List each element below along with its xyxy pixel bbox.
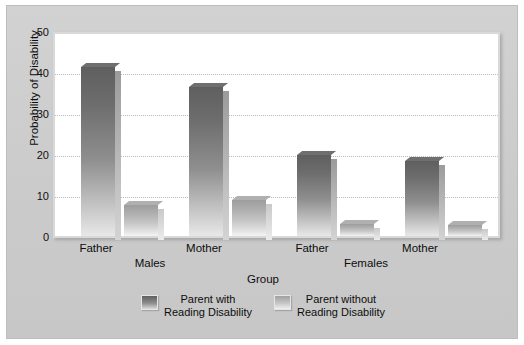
bar-front-face <box>297 155 331 236</box>
bar-females-father-without <box>340 224 374 236</box>
bar-side-face <box>115 71 121 241</box>
bar-front-face <box>81 67 115 237</box>
gridline-40 <box>55 74 498 75</box>
legend-swatch-icon <box>274 295 291 310</box>
bar-side-face <box>331 159 337 240</box>
plot-inner <box>55 34 498 236</box>
x-group-label-males: Males <box>95 257 205 269</box>
bar-front-face <box>189 87 223 236</box>
bar-females-mother-without <box>448 225 482 236</box>
x-axis-label: Group <box>7 273 519 285</box>
bar-side-face <box>158 209 164 240</box>
chart-canvas: Probability of Disability 50 40 30 20 10… <box>6 5 518 339</box>
plot-area <box>53 32 500 238</box>
x-tick-label-males-father: Father <box>51 242 141 254</box>
legend-label: Parent without Reading Disability <box>297 293 385 318</box>
y-tick-label: 20 <box>19 150 49 161</box>
bar-females-mother-with <box>405 161 439 236</box>
bar-males-mother-without <box>232 200 266 236</box>
bar-females-father-with <box>297 155 331 236</box>
y-tick-label: 50 <box>19 27 49 38</box>
x-tick-label-males-mother: Mother <box>159 242 249 254</box>
bar-side-face <box>266 204 272 240</box>
bar-side-face <box>374 228 380 240</box>
bar-front-face <box>340 224 374 236</box>
bar-side-face <box>482 229 488 240</box>
bar-side-face <box>439 165 445 240</box>
chart-legend: Parent with Reading Disability Parent wi… <box>7 293 519 318</box>
bar-males-mother-with <box>189 87 223 236</box>
y-axis-ticks: 50 40 30 20 10 0 <box>15 32 49 238</box>
bar-front-face <box>405 161 439 236</box>
bar-males-father-without <box>124 205 158 236</box>
bar-front-face <box>448 225 482 236</box>
legend-label: Parent with Reading Disability <box>164 293 252 318</box>
y-tick-label: 0 <box>19 232 49 243</box>
bar-males-father-with <box>81 67 115 237</box>
gridline-30 <box>55 115 498 116</box>
bar-side-face <box>223 91 229 240</box>
x-group-label-females: Females <box>311 257 421 269</box>
bar-front-face <box>232 200 266 236</box>
chart-figure: Probability of Disability 50 40 30 20 10… <box>0 0 524 345</box>
bar-front-face <box>124 205 158 236</box>
x-tick-label-females-mother: Mother <box>375 242 465 254</box>
legend-entry-with-disability: Parent with Reading Disability <box>141 293 252 318</box>
x-tick-label-females-father: Father <box>267 242 357 254</box>
legend-swatch-icon <box>141 295 158 310</box>
y-tick-label: 40 <box>19 68 49 79</box>
y-tick-label: 30 <box>19 109 49 120</box>
legend-entry-without-disability: Parent without Reading Disability <box>274 293 385 318</box>
y-tick-label: 10 <box>19 191 49 202</box>
